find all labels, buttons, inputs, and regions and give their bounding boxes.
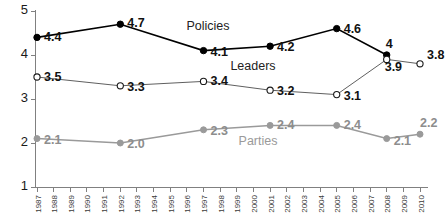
data-point-parties-2010[interactable] — [417, 131, 423, 137]
x-axis-tick-label: 1991 — [100, 194, 109, 212]
series-line-leaders — [37, 59, 420, 94]
data-point-leaders-1987[interactable] — [34, 74, 40, 80]
x-axis-tick-label: 2006 — [350, 194, 359, 212]
series-label-parties: Parties — [239, 134, 278, 148]
data-label-leaders-2010: 3.8 — [427, 48, 444, 62]
data-point-leaders-1992[interactable] — [117, 83, 123, 89]
data-point-policies-1992[interactable] — [117, 21, 123, 27]
x-axis-tick-label: 1997 — [200, 194, 209, 212]
data-label-parties-1997: 2.3 — [211, 124, 228, 138]
data-label-leaders-1992: 3.3 — [127, 80, 144, 94]
data-label-policies-2001: 4.2 — [277, 40, 294, 54]
series-parties: 2.12.02.32.42.42.12.2Parties — [34, 116, 437, 151]
x-axis-tick-label: 1998 — [217, 194, 226, 212]
data-point-parties-1997[interactable] — [201, 127, 207, 133]
series-policies: 4.44.74.14.24.64Policies — [34, 16, 393, 58]
x-axis-tick-label: 2001 — [267, 194, 276, 212]
x-axis-tick-label: 2005 — [333, 194, 342, 212]
series-label-leaders: Leaders — [230, 59, 275, 73]
x-axis-tick-label: 1989 — [67, 194, 76, 212]
data-point-policies-1997[interactable] — [200, 47, 206, 53]
x-axis-tick-label: 2000 — [250, 194, 259, 212]
series-line-parties — [37, 125, 420, 143]
y-axis-tick-label: 5 — [21, 2, 28, 17]
data-label-leaders-1997: 3.4 — [211, 74, 228, 88]
y-axis-tick-label: 2 — [21, 134, 28, 149]
data-label-policies-2008: 4 — [386, 37, 393, 51]
data-point-leaders-2001[interactable] — [267, 87, 273, 93]
data-label-policies-2005: 4.6 — [344, 22, 361, 36]
x-axis-tick-label: 1992 — [117, 194, 126, 212]
y-axis-tick-label: 1 — [21, 178, 28, 193]
data-label-leaders-1987: 3.5 — [44, 70, 61, 84]
data-label-parties-2001: 2.4 — [277, 118, 294, 132]
x-axis-tick-label: 1993 — [133, 194, 142, 212]
data-label-policies-1997: 4.1 — [211, 45, 228, 59]
axes-group: 5432119871988198919901991199219931994199… — [21, 2, 428, 212]
x-axis-tick-label: 1988 — [50, 194, 59, 212]
data-label-leaders-2001: 3.2 — [277, 84, 294, 98]
data-label-parties-1992: 2.0 — [127, 137, 144, 151]
y-axis-tick-label: 3 — [21, 90, 28, 105]
x-axis-tick-label: 2010 — [417, 194, 426, 212]
data-label-parties-1987: 2.1 — [44, 133, 61, 147]
data-point-leaders-1997[interactable] — [200, 78, 206, 84]
x-axis-tick-label: 2007 — [367, 194, 376, 212]
x-axis-tick-label: 2008 — [383, 194, 392, 212]
x-axis-tick-label: 2009 — [400, 194, 409, 212]
x-axis-tick-label: 2003 — [300, 194, 309, 212]
data-point-parties-2001[interactable] — [267, 122, 273, 128]
y-axis-tick-label: 4 — [21, 46, 28, 61]
line-chart: 5432119871988198919901991199219931994199… — [0, 0, 447, 222]
data-label-leaders-2005: 3.1 — [344, 89, 361, 103]
data-point-policies-1987[interactable] — [34, 34, 40, 40]
x-axis-tick-label: 2002 — [283, 194, 292, 212]
data-point-parties-1992[interactable] — [117, 140, 123, 146]
chart-canvas: 5432119871988198919901991199219931994199… — [0, 0, 447, 222]
data-point-parties-2008[interactable] — [384, 136, 390, 142]
data-point-leaders-2010[interactable] — [417, 61, 423, 67]
data-point-leaders-2005[interactable] — [334, 92, 340, 98]
data-point-parties-1987[interactable] — [34, 136, 40, 142]
data-label-parties-2010: 2.2 — [420, 116, 437, 130]
data-point-policies-2005[interactable] — [334, 25, 340, 31]
x-axis-tick-label: 1987 — [34, 194, 43, 212]
data-label-policies-1992: 4.7 — [127, 16, 144, 30]
data-label-parties-2005: 2.4 — [344, 118, 361, 132]
series-leaders: 3.53.33.43.23.13.93.8Leaders — [34, 48, 445, 103]
x-axis-tick-label: 1999 — [233, 194, 242, 212]
series-label-policies: Policies — [186, 19, 229, 33]
data-label-parties-2008: 2.1 — [394, 134, 411, 148]
data-point-parties-2005[interactable] — [334, 122, 340, 128]
x-axis-tick-label: 1996 — [183, 194, 192, 212]
x-axis-tick-label: 2004 — [317, 194, 326, 212]
data-label-leaders-2008: 3.9 — [385, 60, 402, 74]
x-axis-tick-label: 1994 — [150, 194, 159, 212]
x-axis-tick-label: 1990 — [83, 194, 92, 212]
data-point-policies-2001[interactable] — [267, 43, 273, 49]
x-axis-tick-label: 1995 — [167, 194, 176, 212]
data-label-policies-1987: 4.4 — [44, 30, 61, 44]
